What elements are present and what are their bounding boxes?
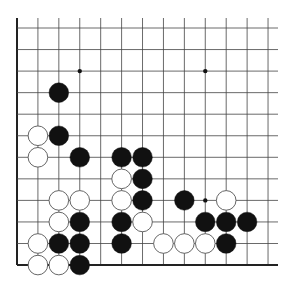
white-stone[interactable] bbox=[28, 234, 48, 254]
star-point-icon bbox=[203, 198, 207, 202]
black-stone[interactable] bbox=[70, 234, 90, 254]
go-board bbox=[0, 0, 294, 286]
white-stone[interactable] bbox=[175, 234, 195, 254]
black-stone[interactable] bbox=[49, 234, 69, 254]
black-stone[interactable] bbox=[70, 212, 90, 232]
white-stone[interactable] bbox=[49, 191, 69, 211]
black-stone[interactable] bbox=[216, 212, 236, 232]
black-stone[interactable] bbox=[70, 255, 90, 275]
black-stone[interactable] bbox=[70, 148, 90, 168]
black-stone[interactable] bbox=[112, 234, 132, 254]
white-stone[interactable] bbox=[70, 191, 90, 211]
black-stone[interactable] bbox=[195, 212, 215, 232]
black-stone[interactable] bbox=[133, 191, 153, 211]
white-stone[interactable] bbox=[112, 191, 132, 211]
star-point-icon bbox=[203, 69, 207, 73]
black-stone[interactable] bbox=[49, 126, 69, 146]
white-stone[interactable] bbox=[216, 191, 236, 211]
white-stone[interactable] bbox=[195, 234, 215, 254]
black-stone[interactable] bbox=[133, 148, 153, 168]
white-stone[interactable] bbox=[28, 126, 48, 146]
white-stone[interactable] bbox=[112, 169, 132, 189]
black-stone[interactable] bbox=[237, 212, 257, 232]
black-stone[interactable] bbox=[112, 148, 132, 168]
star-point-icon bbox=[78, 69, 82, 73]
white-stone[interactable] bbox=[49, 255, 69, 275]
white-stone[interactable] bbox=[154, 234, 174, 254]
white-stone[interactable] bbox=[133, 212, 153, 232]
white-stone[interactable] bbox=[49, 212, 69, 232]
white-stone[interactable] bbox=[28, 148, 48, 168]
black-stone[interactable] bbox=[112, 212, 132, 232]
white-stone[interactable] bbox=[28, 255, 48, 275]
black-stone[interactable] bbox=[216, 234, 236, 254]
black-stone[interactable] bbox=[175, 191, 195, 211]
black-stone[interactable] bbox=[133, 169, 153, 189]
black-stone[interactable] bbox=[49, 83, 69, 103]
